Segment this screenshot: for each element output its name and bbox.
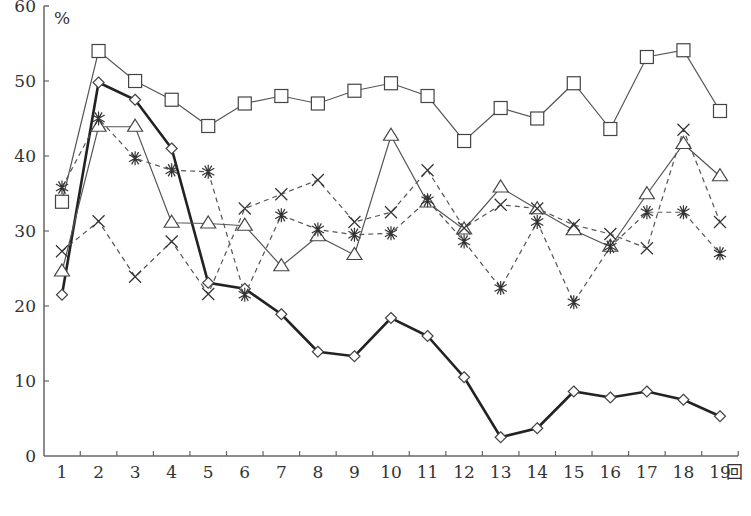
square-marker-icon bbox=[494, 102, 507, 115]
x-tick-label: 10 bbox=[380, 462, 402, 482]
triangle-marker-icon bbox=[676, 137, 691, 149]
x-marker-icon bbox=[422, 164, 434, 176]
square-marker-icon bbox=[677, 44, 690, 57]
asterisk-marker-icon bbox=[129, 151, 141, 165]
x-tick-label: 3 bbox=[130, 462, 141, 482]
asterisk-marker-icon bbox=[275, 208, 287, 222]
asterisk-marker-icon bbox=[531, 215, 543, 229]
x-marker-icon bbox=[56, 245, 68, 257]
y-tick-label: 0 bbox=[25, 446, 36, 466]
x-marker-icon bbox=[166, 236, 178, 248]
series-line bbox=[62, 50, 720, 202]
y-tick-label: 30 bbox=[14, 221, 36, 241]
series-triangle bbox=[62, 127, 720, 272]
x-tick-label: 2 bbox=[93, 462, 104, 482]
series-asterisk bbox=[62, 119, 720, 303]
x-tick-label: 11 bbox=[417, 462, 439, 482]
square-marker-icon bbox=[421, 90, 434, 103]
markers-asterisk bbox=[56, 112, 726, 310]
square-marker-icon bbox=[275, 90, 288, 103]
x-marker-icon bbox=[348, 216, 360, 228]
markers-cross bbox=[56, 124, 726, 300]
triangle-marker-icon bbox=[164, 215, 179, 227]
x-marker-icon bbox=[495, 199, 507, 211]
square-marker-icon bbox=[56, 195, 69, 208]
diamond-marker-icon bbox=[57, 289, 68, 300]
x-tick-label: 18 bbox=[673, 462, 695, 482]
x-tick-label: 8 bbox=[312, 462, 323, 482]
x-marker-icon bbox=[641, 242, 653, 254]
x-tick-label: 16 bbox=[600, 462, 622, 482]
diamond-marker-icon bbox=[641, 386, 652, 397]
x-tick-label: 7 bbox=[276, 462, 287, 482]
square-marker-icon bbox=[531, 112, 544, 125]
diamond-marker-icon bbox=[605, 392, 616, 403]
square-marker-icon bbox=[348, 84, 361, 97]
x-tick-label: 14 bbox=[526, 462, 548, 482]
triangle-marker-icon bbox=[713, 169, 728, 181]
y-tick-label: 50 bbox=[14, 71, 36, 91]
x-marker-icon bbox=[202, 288, 214, 300]
x-tick-label: 13 bbox=[490, 462, 512, 482]
x-tick-label: 5 bbox=[203, 462, 214, 482]
x-tick-label: 9 bbox=[349, 462, 360, 482]
x-marker-icon bbox=[275, 188, 287, 200]
square-marker-icon bbox=[165, 93, 178, 106]
y-tick-label: 40 bbox=[14, 146, 36, 166]
asterisk-marker-icon bbox=[495, 281, 507, 295]
x-marker-icon bbox=[677, 124, 689, 136]
series-line bbox=[62, 119, 720, 303]
x-marker-icon bbox=[93, 215, 105, 227]
series-group bbox=[55, 44, 728, 443]
markers-triangle bbox=[55, 119, 728, 276]
x-marker-icon bbox=[312, 174, 324, 186]
x-marker-icon bbox=[714, 216, 726, 228]
diamond-marker-icon bbox=[93, 77, 104, 88]
triangle-marker-icon bbox=[639, 187, 654, 199]
y-tick-label: 20 bbox=[14, 296, 36, 316]
x-tick-label: 1 bbox=[57, 462, 68, 482]
x-tick-label: 6 bbox=[239, 462, 250, 482]
square-marker-icon bbox=[238, 97, 251, 110]
triangle-marker-icon bbox=[128, 119, 143, 131]
x-marker-icon bbox=[129, 271, 141, 283]
square-marker-icon bbox=[129, 75, 142, 88]
x-tick-label: 4 bbox=[166, 462, 177, 482]
triangle-marker-icon bbox=[201, 216, 216, 228]
triangle-marker-icon bbox=[347, 248, 362, 260]
y-tick-label: 60 bbox=[14, 0, 36, 16]
square-marker-icon bbox=[385, 77, 398, 90]
series-square bbox=[62, 50, 720, 202]
x-marker-icon bbox=[239, 203, 251, 215]
series-line bbox=[62, 127, 720, 272]
asterisk-marker-icon bbox=[568, 295, 580, 309]
square-marker-icon bbox=[604, 123, 617, 136]
square-marker-icon bbox=[311, 97, 324, 110]
square-marker-icon bbox=[92, 45, 105, 58]
x-marker-icon bbox=[385, 206, 397, 218]
diamond-marker-icon bbox=[203, 277, 214, 288]
x-tick-label: 12 bbox=[453, 462, 475, 482]
triangle-marker-icon bbox=[493, 180, 508, 192]
line-chart: 0102030405060123456789101112131415161718… bbox=[0, 0, 751, 516]
x-axis-unit: 回 bbox=[726, 462, 743, 482]
square-marker-icon bbox=[202, 120, 215, 133]
triangle-marker-icon bbox=[384, 128, 399, 140]
diamond-marker-icon bbox=[715, 411, 726, 422]
diamond-marker-icon bbox=[678, 394, 689, 405]
square-marker-icon bbox=[640, 51, 653, 64]
asterisk-marker-icon bbox=[312, 223, 324, 237]
y-axis-unit: % bbox=[54, 8, 70, 28]
x-tick-label: 17 bbox=[636, 462, 658, 482]
square-marker-icon bbox=[567, 77, 580, 90]
square-marker-icon bbox=[458, 135, 471, 148]
y-tick-label: 10 bbox=[14, 371, 36, 391]
x-tick-label: 15 bbox=[563, 462, 585, 482]
square-marker-icon bbox=[714, 105, 727, 118]
